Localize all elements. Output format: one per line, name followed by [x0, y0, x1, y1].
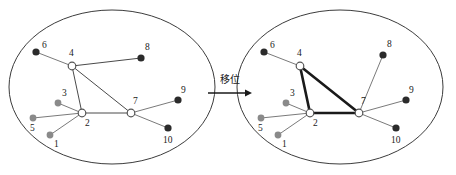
edge-7-10: [131, 113, 168, 128]
node-label-9: 9: [181, 85, 186, 95]
node-label-3: 3: [290, 88, 295, 98]
node-label-6: 6: [270, 40, 275, 50]
node-1[interactable]: [275, 132, 282, 139]
node-8[interactable]: [379, 51, 386, 58]
node-label-2: 2: [85, 118, 90, 128]
node-10[interactable]: [164, 124, 171, 131]
node-label-3: 3: [62, 88, 67, 98]
edge-6-4: [36, 52, 72, 66]
node-label-4: 4: [69, 48, 74, 58]
node-2[interactable]: [78, 109, 86, 117]
node-label-9: 9: [409, 85, 414, 95]
edge-5-2: [33, 113, 82, 118]
edge-7-9: [359, 100, 406, 113]
node-9[interactable]: [402, 96, 409, 103]
node-6[interactable]: [260, 48, 267, 55]
edge-layer: [261, 52, 406, 135]
right-arrow-icon: [245, 90, 252, 97]
edge-1-2: [278, 113, 310, 135]
edge-7-10: [359, 113, 396, 128]
transition-label: 移位: [220, 73, 240, 85]
node-2[interactable]: [306, 109, 314, 117]
node-10[interactable]: [392, 124, 399, 131]
edge-5-2: [261, 113, 310, 118]
node-label-1: 1: [282, 139, 287, 149]
node-7[interactable]: [355, 109, 363, 117]
node-3[interactable]: [283, 100, 290, 107]
node-label-8: 8: [387, 39, 392, 49]
node-label-5: 5: [30, 123, 35, 133]
edge-6-4: [264, 52, 300, 66]
node-4[interactable]: [68, 62, 76, 70]
edge-4-8: [72, 58, 141, 66]
edge-layer: [33, 52, 178, 135]
figure-canvas: 12345678910 12345678910 移位: [0, 0, 456, 175]
node-6[interactable]: [32, 48, 39, 55]
node-label-7: 7: [361, 96, 366, 106]
node-3[interactable]: [55, 100, 62, 107]
node-1[interactable]: [47, 132, 54, 139]
edge-1-2: [50, 113, 82, 135]
node-label-7: 7: [133, 96, 138, 106]
node-label-4: 4: [297, 48, 302, 58]
node-5[interactable]: [30, 115, 37, 122]
node-8[interactable]: [137, 54, 144, 61]
node-9[interactable]: [174, 96, 181, 103]
node-label-6: 6: [42, 40, 47, 50]
node-label-10: 10: [391, 135, 401, 145]
node-7[interactable]: [127, 109, 135, 117]
node-label-8: 8: [145, 42, 150, 52]
node-label-1: 1: [54, 139, 59, 149]
graph-transition-figure: 12345678910 12345678910 移位: [0, 0, 456, 175]
edge-7-9: [131, 100, 178, 113]
node-label-10: 10: [163, 135, 173, 145]
node-label-5: 5: [258, 123, 263, 133]
node-label-2: 2: [313, 118, 318, 128]
node-4[interactable]: [296, 62, 304, 70]
panel-before: 12345678910: [9, 10, 215, 164]
node-5[interactable]: [258, 115, 265, 122]
panel-after: 12345678910: [237, 10, 443, 164]
